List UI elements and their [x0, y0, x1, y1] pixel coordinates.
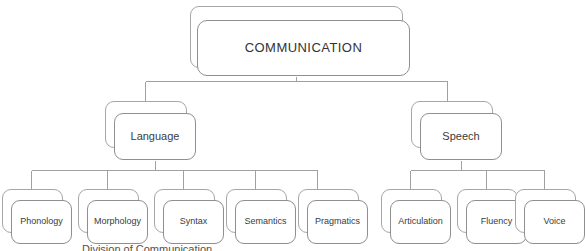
node-label-pragmatics: Pragmatics: [315, 217, 360, 227]
node-face: Semantics: [235, 200, 296, 244]
node-face: Phonology: [11, 200, 72, 244]
node-face: Speech: [420, 113, 502, 160]
figure-caption: Division of Communication: [82, 243, 382, 251]
node-label-speech: Speech: [442, 130, 479, 142]
node-label-language: Language: [131, 130, 180, 142]
node-label-voice: Voice: [543, 217, 565, 227]
node-phonology[interactable]: Phonology: [2, 189, 63, 233]
node-label-communication: COMMUNICATION: [245, 41, 363, 55]
node-pragmatics[interactable]: Pragmatics: [298, 189, 359, 233]
node-face: COMMUNICATION: [197, 20, 410, 76]
node-articulation[interactable]: Articulation: [381, 189, 442, 233]
node-fluency[interactable]: Fluency: [457, 189, 518, 233]
node-face: Pragmatics: [307, 200, 368, 244]
node-label-phonology: Phonology: [20, 217, 63, 227]
node-label-syntax: Syntax: [180, 217, 208, 227]
node-syntax[interactable]: Syntax: [154, 189, 215, 233]
node-face: Morphology: [87, 200, 148, 244]
node-morphology[interactable]: Morphology: [78, 189, 139, 233]
node-face: Syntax: [163, 200, 224, 244]
node-communication[interactable]: COMMUNICATION: [190, 6, 403, 68]
communication-hierarchy-diagram: COMMUNICATION Language Speech Phonology …: [0, 0, 585, 251]
node-face: Voice: [524, 200, 585, 244]
node-label-semantics: Semantics: [244, 217, 286, 227]
node-semantics[interactable]: Semantics: [226, 189, 287, 233]
node-face: Articulation: [390, 200, 451, 244]
node-speech[interactable]: Speech: [411, 101, 493, 148]
node-language[interactable]: Language: [105, 101, 187, 148]
node-voice[interactable]: Voice: [515, 189, 576, 233]
node-label-fluency: Fluency: [481, 217, 513, 227]
node-face: Language: [114, 113, 196, 160]
node-label-articulation: Articulation: [398, 217, 443, 227]
node-label-morphology: Morphology: [94, 217, 141, 227]
